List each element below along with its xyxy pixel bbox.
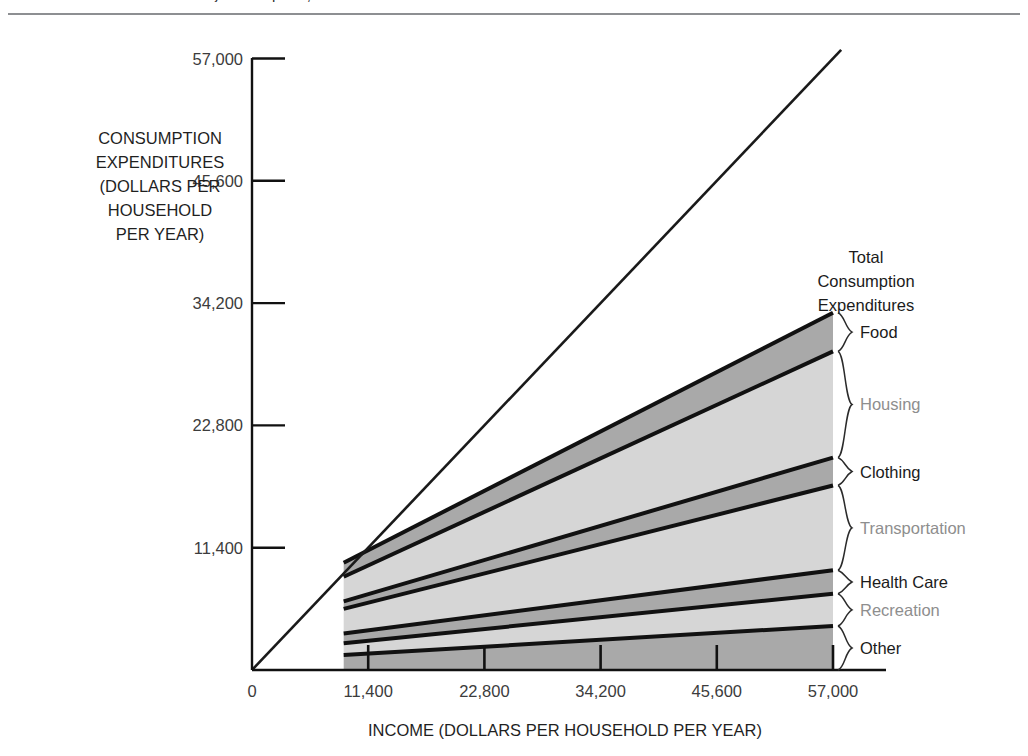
y-axis-title: CONSUMPTIONEXPENDITURES(DOLLARS PERHOUSE… (96, 129, 224, 243)
y-axis-ticks: 11,40022,80034,20045,60057,000 (193, 50, 285, 557)
x-tick-label-5: 57,000 (808, 682, 858, 700)
y-tick-label-1: 22,800 (193, 416, 243, 434)
series-label-other: Other (860, 639, 902, 657)
x-tick-label-1: 11,400 (344, 682, 393, 700)
x-tick-label-3: 34,200 (575, 682, 625, 700)
y-axis-title-line-1: EXPENDITURES (96, 153, 224, 171)
series-label-housing: Housing (860, 395, 921, 413)
x-tick-label-0: 0 (247, 682, 256, 700)
brace-clothing (838, 458, 852, 486)
series-label-clothing: Clothing (860, 463, 921, 481)
x-axis-ticks: 011,40022,80034,20045,60057,000 (247, 682, 858, 700)
y-axis-title-line-4: PER YEAR) (116, 225, 205, 243)
y-axis-title-line-3: HOUSEHOLD (108, 201, 213, 219)
series-brace-markers (838, 313, 852, 670)
x-tick-label-2: 22,800 (459, 682, 509, 700)
total-label-line-2: Expenditures (818, 296, 914, 314)
series-label-transportation: Transportation (860, 519, 966, 537)
brace-health-care (838, 570, 852, 594)
total-consumption-expenditures-label: TotalConsumptionExpenditures (817, 248, 914, 314)
brace-transportation (838, 486, 852, 571)
y-tick-label-4: 57,000 (193, 50, 243, 68)
series-label-food: Food (860, 323, 898, 341)
stacked-area-bands (344, 313, 833, 670)
series-labels: FoodHousingClothingTransportationHealth … (860, 323, 966, 657)
series-label-health-care: Health Care (860, 573, 948, 591)
consumption-expenditures-area-chart: 11,40022,80034,20045,60057,000 011,40022… (0, 0, 1028, 756)
clipped-header-title: ...y............p......, (200, 0, 840, 2)
total-label-line-1: Consumption (817, 272, 914, 290)
brace-housing (838, 351, 852, 457)
brace-food (838, 313, 852, 352)
series-label-recreation: Recreation (860, 601, 940, 619)
y-axis-title-line-0: CONSUMPTION (98, 129, 222, 147)
y-tick-label-2: 34,200 (193, 294, 243, 312)
chart-figure: ...y............p......, 11,40022,80034,… (0, 0, 1028, 756)
y-axis-title-line-2: (DOLLARS PER (99, 177, 220, 195)
brace-other (838, 626, 852, 670)
total-label-line-0: Total (849, 248, 884, 266)
header-divider (8, 13, 1020, 15)
x-axis-title: INCOME (DOLLARS PER HOUSEHOLD PER YEAR) (368, 721, 762, 739)
brace-recreation (838, 594, 852, 626)
x-tick-label-4: 45,600 (692, 682, 742, 700)
y-tick-label-0: 11,400 (194, 539, 243, 557)
